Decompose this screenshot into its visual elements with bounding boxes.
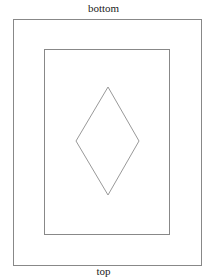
inner-rectangle — [45, 50, 170, 235]
outer-rectangle — [14, 20, 202, 266]
diamond — [76, 87, 139, 195]
label-top: top — [0, 265, 207, 277]
